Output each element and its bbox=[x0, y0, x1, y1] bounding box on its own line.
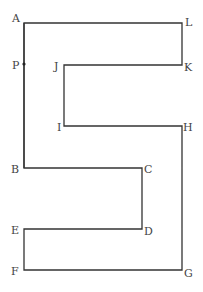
label-l: L bbox=[185, 16, 193, 29]
label-e: E bbox=[11, 224, 19, 237]
label-p: P bbox=[12, 59, 20, 72]
label-k: K bbox=[184, 61, 193, 74]
label-g: G bbox=[184, 267, 193, 280]
label-i: I bbox=[57, 121, 61, 134]
label-c: C bbox=[144, 163, 152, 176]
label-f: F bbox=[11, 265, 19, 278]
point-p-marker bbox=[22, 62, 25, 65]
label-a: A bbox=[11, 12, 21, 25]
diagram-canvas: A L P J K I H B C E D F G bbox=[0, 0, 203, 292]
label-j: J bbox=[53, 60, 58, 73]
label-d: D bbox=[144, 225, 153, 238]
s-shape-outline bbox=[24, 23, 182, 270]
label-b: B bbox=[11, 163, 19, 176]
polygon-diagram: A L P J K I H B C E D F G bbox=[0, 0, 203, 292]
label-h: H bbox=[183, 121, 193, 134]
